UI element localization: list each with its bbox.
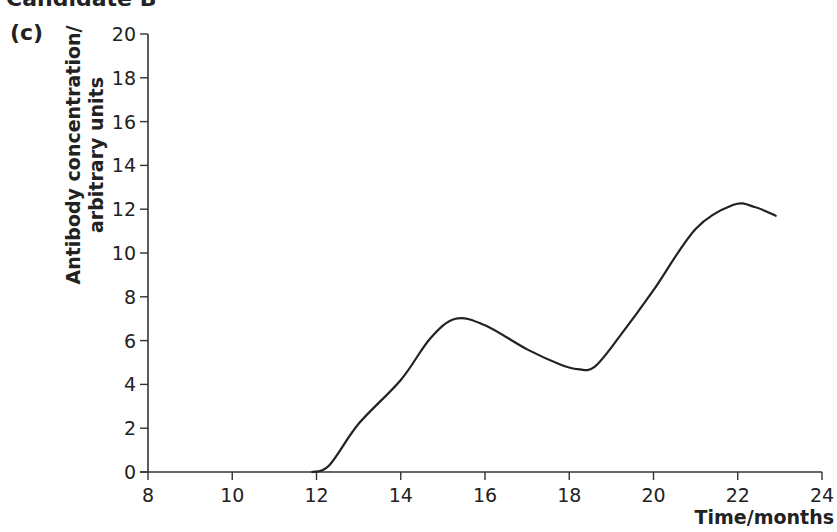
x-axis-title: Time/months — [695, 506, 834, 528]
y-tick-label: 18 — [112, 67, 136, 89]
x-tick-label: 16 — [473, 484, 497, 506]
y-axis-title-line2: arbitrary units — [85, 77, 107, 233]
x-tick-label: 10 — [220, 484, 244, 506]
x-tick-label: 24 — [810, 484, 834, 506]
y-tick-label: 10 — [112, 242, 136, 264]
axes — [140, 34, 822, 472]
y-tick-label: 20 — [112, 23, 136, 45]
x-tick-label: 20 — [641, 484, 665, 506]
y-tick-label: 0 — [124, 461, 136, 483]
x-axis-ticks: 81012141618202224 — [142, 472, 834, 506]
y-tick-label: 16 — [112, 111, 136, 133]
y-tick-label: 8 — [124, 286, 136, 308]
x-tick-label: 12 — [304, 484, 328, 506]
y-tick-label: 6 — [124, 330, 136, 352]
x-tick-label: 14 — [389, 484, 413, 506]
y-tick-label: 12 — [112, 198, 136, 220]
x-tick-label: 22 — [726, 484, 750, 506]
y-tick-label: 14 — [112, 154, 136, 176]
x-tick-label: 18 — [557, 484, 581, 506]
y-tick-label: 2 — [124, 417, 136, 439]
line-chart: 02468101214161820 81012141618202224 Anti… — [0, 0, 837, 532]
y-axis-ticks: 02468101214161820 — [112, 23, 148, 483]
x-tick-label: 8 — [142, 484, 154, 506]
y-tick-label: 4 — [124, 373, 136, 395]
y-axis-title-line1: Antibody concentration/ — [62, 25, 84, 284]
antibody-curve — [312, 203, 775, 472]
